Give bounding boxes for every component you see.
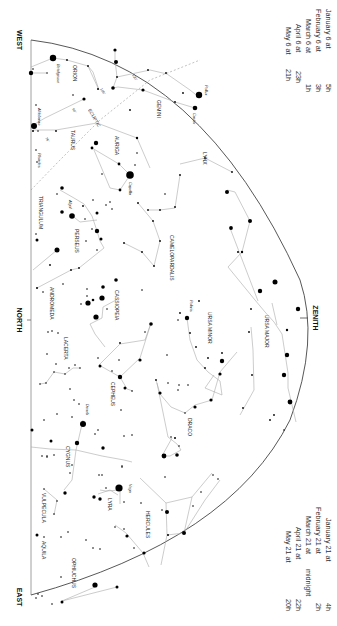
time-top-hour-4: 21h: [284, 69, 293, 81]
ecliptic-label: ECLIPTIC: [87, 108, 102, 129]
direction-north: NORTH: [16, 308, 23, 333]
label-vega: Vega: [128, 484, 132, 493]
ecliptic-marker-105: 105°: [99, 88, 106, 97]
time-bottom-hour-2: midnight: [304, 569, 313, 596]
label-lyra: LYRA: [107, 498, 113, 511]
label-lacerta: LACERTA: [63, 337, 69, 360]
label-cassiopeia: CASSIOPEIA: [114, 290, 120, 321]
times-top: January 6 at 5h February 6 at 3h March 6…: [284, 9, 333, 92]
time-bottom-date-3: April 21 at: [294, 527, 303, 559]
ecliptic-marker-90: 90°: [71, 108, 77, 115]
label-polaris: Polaris: [189, 300, 193, 312]
label-draco: DRACO: [187, 418, 193, 436]
time-bottom-date-1: February 21 at: [314, 507, 323, 554]
time-bottom-date-2: March 21 at: [304, 516, 313, 554]
label-pleiades: Pleiades: [37, 153, 41, 168]
star-chart: WEST NORTH EAST ZENITH ECLIPTIC 120° 105…: [0, 0, 337, 626]
time-top-date-0: January 6 at: [324, 9, 333, 49]
time-bottom-hour-4: 20h: [284, 599, 293, 611]
label-algol: Algol: [68, 199, 72, 209]
time-bottom-hour-3: 22h: [294, 599, 303, 611]
label-andromeda: ANDROMEDA: [49, 287, 55, 320]
label-ursa-major: URSA MAJOR: [264, 315, 270, 348]
direction-zenith: ZENITH: [312, 305, 319, 330]
label-deneb: Deneb: [85, 404, 89, 415]
label-ophiuchus: OPHIUCHUS: [71, 558, 77, 589]
label-castor: Castor: [192, 113, 196, 125]
time-top-date-2: March 6 at: [304, 19, 313, 53]
time-top-hour-2: 1h: [304, 84, 313, 92]
ecliptic-marker-75: 75°: [44, 137, 50, 144]
label-orion: ORION: [72, 65, 78, 82]
time-top-date-4: May 6 at: [284, 27, 293, 55]
label-cygnus: CYGNUS: [65, 446, 71, 468]
constellation-labels: ORION GEMINI TAURUS AURIGA LYNX TRIANGUL…: [38, 65, 270, 589]
label-pollux: Pollux: [204, 85, 208, 96]
direction-west: WEST: [16, 30, 23, 51]
time-bottom-hour-0: 4h: [324, 603, 333, 611]
time-top-hour-3: 23h: [294, 71, 303, 83]
constellation-lines: [30, 50, 296, 601]
time-bottom-date-0: January 21 at: [324, 518, 333, 562]
star-labels: Betelgeuse Aldebaran Pleiades Pollux Cas…: [37, 64, 208, 493]
label-hercules: HERCULES: [145, 511, 151, 539]
label-triangulum: TRIANGULUM: [38, 196, 44, 229]
time-top-hour-1: 3h: [314, 84, 323, 92]
label-aquila: AQUILA: [41, 541, 47, 560]
time-top-date-1: February 6 at: [314, 9, 323, 52]
ecliptic-marker-120: 120°: [131, 74, 138, 83]
label-camelopardalis: CAMELOPARDALIS: [169, 235, 175, 281]
time-bottom-hour-1: 2h: [314, 603, 323, 611]
label-taurus: TAURUS: [70, 130, 76, 151]
times-bottom: January 21 at 4h February 21 at 2h March…: [284, 507, 333, 611]
time-top-date-3: April 6 at: [294, 24, 303, 52]
direction-east: EAST: [16, 588, 23, 607]
time-bottom-date-4: May 21 at: [284, 531, 293, 563]
label-lynx: LYNX: [202, 152, 208, 165]
label-gemini: GEMINI: [156, 100, 162, 118]
time-top-hour-0: 5h: [324, 84, 333, 92]
label-capella: Capella: [128, 182, 132, 195]
stars: [29, 48, 300, 604]
label-vulpecula: VULPECULA: [41, 493, 47, 523]
label-cepheus: CEPHEUS: [110, 382, 116, 407]
label-ursa-minor: URSA MINOR: [207, 312, 213, 344]
label-aldebaran: Aldebaran: [37, 107, 41, 125]
label-betelgeuse: Betelgeuse: [56, 64, 60, 83]
label-auriga: AURIGA: [114, 136, 120, 156]
label-perseus: PERSEUS: [74, 229, 80, 254]
